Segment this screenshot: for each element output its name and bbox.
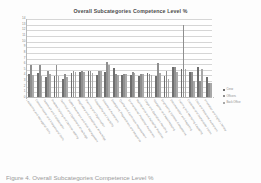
legend-swatch <box>223 89 225 91</box>
bar <box>66 77 68 97</box>
chart-title: Overall Subcategories Competence Level % <box>0 8 261 14</box>
bar-group <box>145 19 153 97</box>
plot-area: 01234567891011121314 <box>26 19 212 98</box>
chart-legend: CrewOfficersBack Office <box>223 88 259 108</box>
legend-label: Back Office <box>226 101 240 104</box>
x-axis-labels: Leadership and Managerial SkillsCommunic… <box>26 99 212 165</box>
legend-swatch <box>223 95 225 97</box>
bar-group <box>27 19 35 97</box>
bar-group <box>171 19 179 97</box>
legend-item: Back Office <box>223 101 259 104</box>
bar-group <box>179 19 187 97</box>
bar <box>58 76 60 97</box>
bar-group <box>35 19 43 97</box>
bar-group <box>120 19 128 97</box>
bar-group <box>162 19 170 97</box>
bar-group <box>86 19 94 97</box>
bar-group <box>128 19 136 97</box>
bar-group <box>205 19 213 97</box>
bar <box>201 69 203 97</box>
bar <box>142 74 144 97</box>
legend-item: Officers <box>223 95 259 98</box>
x-axis-tick-mark <box>213 97 214 98</box>
bar-group <box>112 19 120 97</box>
bars-layer <box>27 19 212 97</box>
bar <box>83 72 85 97</box>
bar <box>125 74 127 97</box>
bar <box>151 75 153 97</box>
bar <box>210 83 212 97</box>
bar-group <box>78 19 86 97</box>
bar-group <box>61 19 69 97</box>
bar-group <box>188 19 196 97</box>
plot-wrapper: 01234567891011121314 <box>26 19 212 98</box>
bar <box>134 73 136 97</box>
bar <box>108 65 110 97</box>
bar-group <box>103 19 111 97</box>
legend-label: Crew <box>226 88 233 91</box>
bar <box>92 73 94 97</box>
bar <box>117 75 119 97</box>
bar <box>100 71 102 97</box>
bar-group <box>154 19 162 97</box>
bar-group <box>52 19 60 97</box>
bar <box>41 76 43 97</box>
bar <box>159 73 161 97</box>
bar <box>176 72 178 97</box>
bar <box>193 81 195 97</box>
legend-label: Officers <box>226 95 236 98</box>
bar <box>168 79 170 97</box>
bar <box>75 72 77 97</box>
bar <box>185 69 187 97</box>
legend-swatch <box>223 102 225 104</box>
bar <box>32 75 34 97</box>
figure-container: Overall Subcategories Competence Level %… <box>0 0 261 183</box>
bar-group <box>44 19 52 97</box>
bar-group <box>69 19 77 97</box>
bar-group <box>95 19 103 97</box>
figure-caption: Figure 4. Overall Subcategories Competen… <box>6 174 255 181</box>
legend-item: Crew <box>223 88 259 91</box>
bar-group <box>137 19 145 97</box>
bar-group <box>196 19 204 97</box>
bar <box>49 74 51 97</box>
